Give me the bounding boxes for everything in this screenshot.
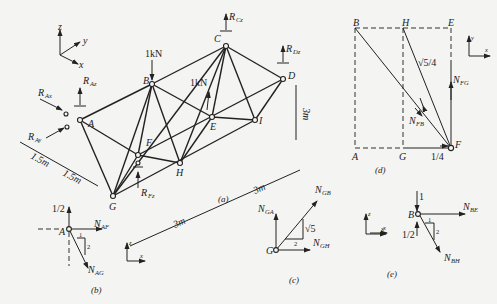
svg-text:R: R [228, 11, 235, 22]
node-label-f: F [145, 137, 153, 148]
svg-text:2: 2 [87, 243, 90, 250]
svg-text:2: 2 [294, 240, 297, 247]
svg-text:Ax: Ax [44, 92, 52, 99]
svg-text:y: y [470, 34, 474, 41]
svg-text:Az: Az [89, 80, 97, 87]
svg-text:Fz: Fz [147, 192, 155, 199]
node-label-g: G [109, 201, 116, 212]
svg-text:1: 1 [428, 216, 431, 223]
corner-g: G [399, 151, 406, 162]
axes-d: y x [469, 34, 490, 56]
svg-text:z: z [367, 210, 371, 217]
reaction-ay: R Ay [27, 125, 69, 143]
reaction-cz: R Cz [220, 11, 243, 31]
svg-text:√5/4: √5/4 [418, 57, 436, 68]
svg-text:1.5m: 1.5m [61, 167, 84, 186]
node-label-b-e: B [408, 209, 414, 220]
reaction-dz: R Dz [277, 43, 301, 63]
svg-text:√5: √5 [305, 223, 316, 234]
panel-d: B H E A G F √5/4 N FG N FB 1/4 y x (d) [351, 17, 490, 175]
node-label-d: D [287, 70, 296, 81]
svg-text:1kN: 1kN [145, 48, 162, 59]
svg-text:R: R [37, 87, 44, 98]
svg-text:BH: BH [451, 257, 460, 264]
svg-text:Ay: Ay [34, 136, 42, 143]
reaction-ax: R Ax [37, 87, 68, 116]
svg-text:FB: FB [415, 120, 424, 127]
reaction-az: R Az [74, 75, 97, 106]
corner-b: B [353, 17, 359, 28]
axis-z-label: z [57, 21, 62, 32]
node-label-i: I [258, 115, 263, 126]
svg-text:AF: AF [100, 223, 110, 230]
svg-text:3m: 3m [250, 181, 267, 196]
dimension-lines: 1.5m 1.5m 3m 3m 3m [20, 85, 312, 246]
corner-e: E [447, 17, 454, 28]
svg-text:2: 2 [436, 228, 439, 235]
svg-text:1kN: 1kN [190, 77, 207, 88]
panel-b: A 1/2 N AF N AG 1 2 z x (b) [38, 203, 145, 295]
panel-e: B 1 1/2 N BE N BH 1 2 x (e) [370, 191, 478, 279]
caption-d: (d) [375, 165, 386, 175]
svg-text:x: x [382, 224, 386, 231]
svg-text:1.5m: 1.5m [29, 150, 52, 169]
svg-text:x: x [484, 46, 488, 53]
corner-h: H [401, 17, 410, 28]
axes-e: x [370, 224, 387, 233]
svg-text:3m: 3m [301, 107, 312, 120]
svg-text:1/4: 1/4 [431, 151, 444, 162]
node-label-a-b: A [58, 226, 66, 237]
node-label-g-c: G [266, 245, 273, 256]
svg-text:Dz: Dz [292, 48, 301, 55]
svg-text:3m: 3m [170, 215, 187, 230]
axis-y-label: y [82, 35, 88, 46]
svg-text:R: R [27, 131, 34, 142]
svg-text:R: R [82, 75, 89, 86]
svg-text:1: 1 [419, 191, 424, 202]
corner-a: A [351, 151, 359, 162]
panel-c: G N GA N GB N GH 2 √5 z x (c) [257, 184, 386, 285]
svg-text:1/2: 1/2 [402, 229, 415, 240]
node-label-c: C [214, 33, 221, 44]
truss-figure: z y x [0, 0, 497, 304]
caption-c: (c) [289, 275, 299, 285]
svg-text:1: 1 [79, 231, 82, 238]
svg-text:GA: GA [265, 208, 274, 215]
caption-b: (b) [91, 285, 102, 295]
svg-text:AG: AG [94, 269, 104, 276]
node-label-a: A [87, 118, 95, 129]
svg-text:x: x [139, 252, 143, 259]
corner-f: F [454, 139, 462, 150]
caption-e: (e) [387, 269, 397, 279]
svg-text:GB: GB [322, 189, 331, 196]
node-label-e: E [209, 121, 216, 132]
svg-text:R: R [285, 43, 292, 54]
axes-triad-a: z y x [57, 21, 88, 70]
caption-a: (a) [218, 194, 229, 204]
node-label-b: B [143, 75, 149, 86]
svg-text:FG: FG [459, 79, 469, 86]
svg-text:R: R [140, 187, 147, 198]
load-e: 1kN [190, 77, 209, 110]
svg-text:1/2: 1/2 [52, 203, 65, 214]
node-label-h: H [175, 167, 184, 178]
axes-b: z x [127, 239, 145, 261]
svg-text:z: z [128, 239, 132, 246]
axis-x-label: x [78, 59, 84, 70]
svg-text:GH: GH [320, 242, 330, 249]
svg-text:BE: BE [470, 206, 478, 213]
svg-text:Cz: Cz [236, 16, 243, 23]
